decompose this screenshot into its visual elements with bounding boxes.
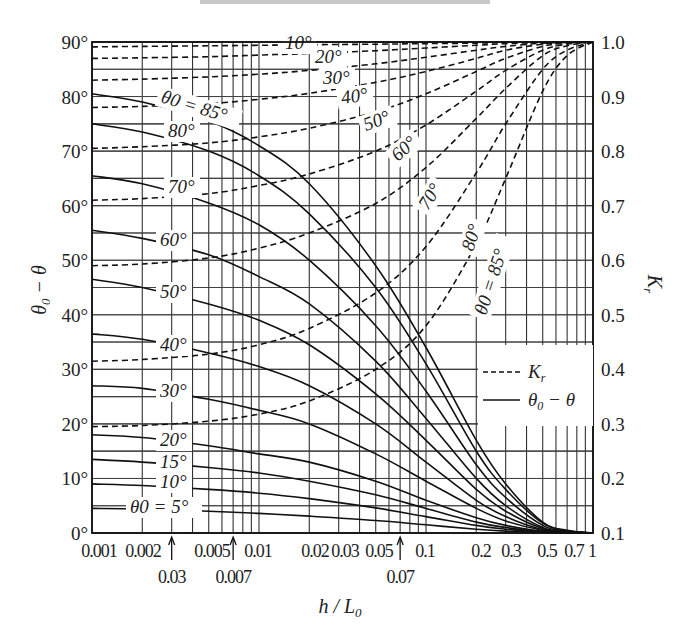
y-left-tick-label: 80°: [61, 87, 88, 108]
kr-curve-label-text: 30°: [322, 67, 350, 88]
x-tick-label: 0.1: [415, 541, 435, 561]
x-tick-label: 0.2: [471, 541, 491, 561]
curve-label: 70°: [164, 176, 200, 198]
x-tick-label: 0.02: [301, 541, 329, 561]
subscript: 0: [355, 605, 362, 620]
y-left-tick-label: 90°: [61, 32, 88, 53]
kr-curve-label: 80°: [456, 216, 488, 257]
x-tick-label: 0.03: [331, 541, 360, 561]
subscript: r: [541, 371, 546, 385]
y-right-tick-label: 0.3: [601, 414, 625, 435]
legend-angle-label: θ0 − θ: [528, 389, 575, 413]
kr-curve-label: 20°: [311, 46, 347, 68]
curve-label: 50°: [156, 281, 192, 303]
curve-label-text: 60°: [160, 229, 187, 250]
x-tick-label: 0.001: [81, 541, 117, 561]
legend-box: [478, 345, 593, 426]
y-right-axis-title: Kr: [641, 274, 666, 294]
y-right-tick-label: 0.6: [601, 250, 625, 271]
curve-label: θ0 = 5°: [126, 496, 202, 518]
curve-label: 10°: [156, 471, 192, 493]
curve-label: 20°: [156, 429, 192, 451]
y-left-tick-label: 70°: [61, 141, 88, 162]
curve-label-text: 20°: [160, 429, 187, 450]
curve-label: 30°: [156, 380, 192, 402]
x-tick-label: 0.002: [125, 541, 161, 561]
text: − θ: [543, 389, 575, 410]
y-right-tick-label: 0.7: [601, 196, 625, 217]
y-left-tick-label: 30°: [61, 359, 88, 380]
y-left-tick-label: 20°: [61, 414, 88, 435]
refraction-chart: θ0 = 85°80°70°60°50°40°30°20°15°10°θ0 = …: [0, 0, 685, 639]
y-right-tick-label: 0.9: [601, 87, 625, 108]
y-right-tick-label: 0.4: [601, 359, 625, 380]
curve-label-text: 50°: [160, 281, 187, 302]
x-axis-title: h / L0: [318, 595, 362, 620]
kr-curve-label-text: 20°: [315, 46, 342, 67]
kr-curve-label: 70°: [411, 175, 449, 217]
y-right-tick-label: 0.2: [601, 468, 625, 489]
kr-curve-label: 40°: [336, 83, 375, 110]
text: − θ: [28, 265, 50, 298]
curve-label: 15°: [156, 451, 192, 473]
x-tick-label: 0.7: [564, 541, 585, 561]
y-left-tick-label: 50°: [61, 250, 88, 271]
y-left-tick-label: 60°: [61, 196, 88, 217]
curves: θ0 = 85°80°70°60°50°40°30°20°15°10°θ0 = …: [92, 32, 593, 533]
kr-curve-label: 50°: [356, 104, 397, 137]
kr-curve-label-text: 40°: [340, 83, 370, 108]
curve-label: 80°: [164, 120, 200, 142]
x-tick-label: 1: [588, 541, 596, 561]
x-annotation-label: 0.007: [215, 567, 252, 587]
curve-label-text: 40°: [160, 334, 187, 355]
x-tick-label: 0.3: [501, 541, 522, 561]
x-tick-label: 0.5: [537, 541, 558, 561]
y-left-tick-label: 10°: [61, 468, 88, 489]
curve-label-text: θ0 = 5°: [130, 496, 189, 517]
y-left-axis-title: θ0 − θ: [28, 265, 53, 315]
curve-label-text: 10°: [160, 471, 187, 492]
y-right-tick-label: 0.1: [601, 523, 625, 544]
y-right-tick-label: 0.5: [601, 305, 625, 326]
curve-label-text: 15°: [160, 451, 187, 472]
curve-label-text: 80°: [168, 120, 195, 141]
x-annotation-label: 0.03: [158, 567, 187, 587]
x-tick-label: 0.005: [194, 541, 231, 561]
x-tick-label: 0.05: [365, 541, 394, 561]
x-tick-label: 0.01: [244, 541, 272, 561]
y-left-tick-label: 40°: [61, 305, 88, 326]
y-right-tick-label: 1.0: [601, 32, 625, 53]
curve-label-text: 70°: [168, 176, 195, 197]
curve-label: 60°: [156, 229, 192, 251]
subscript: r: [641, 288, 656, 294]
curve-label: 40°: [156, 334, 192, 356]
y-right-tick-label: 0.8: [601, 141, 625, 162]
curve-label-text: 30°: [159, 380, 187, 401]
x-annotation-label: 0.07: [386, 567, 415, 587]
legend: Krθ0 − θ: [478, 345, 593, 426]
